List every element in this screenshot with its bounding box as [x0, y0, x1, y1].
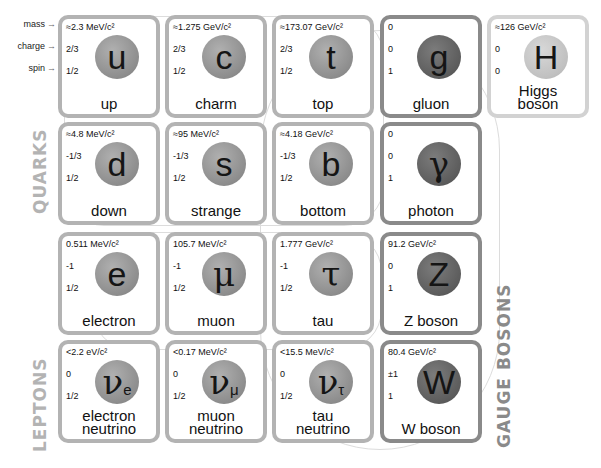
particle-name: bottom	[276, 204, 370, 217]
mass-value: ≈4.8 MeV/c²	[66, 129, 114, 139]
spin-value: 1/2	[173, 391, 186, 401]
mass-value: ≈1.275 GeV/c²	[173, 22, 231, 32]
charge-value: ±1	[388, 369, 398, 379]
particle-card-electron[interactable]: 0.511 MeV/c²-11/2 e electron	[58, 232, 160, 335]
charge-value: 0	[173, 369, 178, 379]
particle-card-muon[interactable]: 105.7 MeV/c²-11/2 μ muon	[165, 232, 267, 335]
particle-name: electron	[62, 314, 156, 327]
charge-value: -1	[280, 261, 288, 271]
legend-charge: charge→	[0, 41, 56, 51]
particle-symbol: d	[95, 142, 139, 186]
particle-symbol: c	[202, 35, 246, 79]
particle-name: W boson	[384, 422, 478, 435]
particle-symbol: H	[524, 35, 568, 79]
mass-value: 0	[388, 129, 393, 139]
particle-name: tau	[276, 314, 370, 327]
particle-card-photon[interactable]: 001 γ photon	[380, 122, 482, 225]
particle-symbol: W	[417, 360, 461, 404]
particle-symbol: γ	[417, 142, 461, 186]
spin-value: 1/2	[173, 66, 186, 76]
charge-value: 0	[66, 369, 71, 379]
particle-name: up	[62, 97, 156, 110]
charge-value: 0	[495, 44, 500, 54]
particle-card-tau[interactable]: 1.777 GeV/c²-11/2 τ tau	[272, 232, 374, 335]
spin-value: 1	[388, 283, 393, 293]
charge-value: 2/3	[280, 44, 293, 54]
particle-card-electron-neutrino[interactable]: <2.2 eV/c²01/2 νe electronneutrino	[58, 340, 160, 443]
particle-card-up[interactable]: ≈2.3 MeV/c²2/31/2 u up	[58, 15, 160, 118]
mass-value: 0	[388, 22, 393, 32]
legend-spin: spin→	[0, 63, 56, 73]
mass-value: ≈4.18 GeV/c²	[280, 129, 333, 139]
charge-value: 0	[388, 151, 393, 161]
particle-card-top[interactable]: ≈173.07 GeV/c²2/31/2 t top	[272, 15, 374, 118]
mass-value: <0.17 MeV/c²	[173, 347, 227, 357]
particle-name: gluon	[384, 97, 478, 110]
particle-name: strange	[169, 204, 263, 217]
mass-value: 91.2 GeV/c²	[388, 239, 436, 249]
particle-symbol: t	[309, 35, 353, 79]
particle-card-gluon[interactable]: 001 g gluon	[380, 15, 482, 118]
particle-name: Higgsboson	[491, 84, 585, 110]
charge-value: 0	[388, 261, 393, 271]
spin-value: 1	[388, 66, 393, 76]
particle-symbol: s	[202, 142, 246, 186]
particle-card-w-boson[interactable]: 80.4 GeV/c²±11 W W boson	[380, 340, 482, 443]
particle-card-tau-neutrino[interactable]: <15.5 MeV/c²01/2 ντ tauneutrino	[272, 340, 374, 443]
particle-symbol: νμ	[202, 360, 246, 404]
spin-value: 0	[495, 66, 500, 76]
particle-name: electronneutrino	[62, 409, 156, 435]
charge-value: -1/3	[66, 151, 82, 161]
spin-value: 1/2	[66, 283, 79, 293]
particle-symbol: u	[95, 35, 139, 79]
charge-value: -1	[173, 261, 181, 271]
particle-name: charm	[169, 97, 263, 110]
mass-value: 105.7 MeV/c²	[173, 239, 227, 249]
particle-name: photon	[384, 204, 478, 217]
particle-name: Z boson	[384, 314, 478, 327]
particle-symbol: μ	[202, 252, 246, 296]
mass-value: ≈126 GeV/c²	[495, 22, 545, 32]
particle-card-charm[interactable]: ≈1.275 GeV/c²2/31/2 c charm	[165, 15, 267, 118]
particle-symbol: Z	[417, 252, 461, 296]
spin-value: 1	[388, 391, 393, 401]
charge-value: 2/3	[173, 44, 186, 54]
particle-symbol: τ	[309, 252, 353, 296]
spin-value: 1/2	[173, 173, 186, 183]
mass-value: 1.777 GeV/c²	[280, 239, 333, 249]
spin-value: 1/2	[173, 283, 186, 293]
spin-value: 1/2	[280, 283, 293, 293]
spin-value: 1/2	[280, 173, 293, 183]
charge-value: 2/3	[66, 44, 79, 54]
particle-symbol: νe	[95, 360, 139, 404]
spin-value: 1/2	[66, 391, 79, 401]
mass-value: 80.4 GeV/c²	[388, 347, 436, 357]
mass-value: 0.511 MeV/c²	[66, 239, 119, 249]
spin-value: 1/2	[66, 66, 79, 76]
particle-card-z-boson[interactable]: 91.2 GeV/c²01 Z Z boson	[380, 232, 482, 335]
mass-value: ≈173.07 GeV/c²	[280, 22, 343, 32]
particle-card-strange[interactable]: ≈95 MeV/c²-1/31/2 s strange	[165, 122, 267, 225]
mass-value: <2.2 eV/c²	[66, 347, 107, 357]
group-label-gauge-bosons: GAUGE BOSONS	[494, 284, 514, 448]
charge-value: 0	[280, 369, 285, 379]
spin-value: 1	[388, 173, 393, 183]
charge-value: -1	[66, 261, 74, 271]
particle-name: down	[62, 204, 156, 217]
particle-card-bottom[interactable]: ≈4.18 GeV/c²-1/31/2 b bottom	[272, 122, 374, 225]
mass-value: ≈2.3 MeV/c²	[66, 22, 114, 32]
mass-value: <15.5 MeV/c²	[280, 347, 334, 357]
legend-mass: mass→	[0, 19, 56, 29]
spin-value: 1/2	[280, 66, 293, 76]
group-label-quarks: QUARKS	[30, 129, 50, 214]
charge-value: 0	[388, 44, 393, 54]
particle-symbol: g	[417, 35, 461, 79]
group-label-leptons: LEPTONS	[30, 358, 50, 452]
particle-card-higgs[interactable]: ≈126 GeV/c²00 H Higgsboson	[487, 15, 589, 118]
particle-symbol: e	[95, 252, 139, 296]
spin-value: 1/2	[66, 173, 79, 183]
particle-name: muonneutrino	[169, 409, 263, 435]
particle-card-down[interactable]: ≈4.8 MeV/c²-1/31/2 d down	[58, 122, 160, 225]
particle-card-muon-neutrino[interactable]: <0.17 MeV/c²01/2 νμ muonneutrino	[165, 340, 267, 443]
charge-value: -1/3	[280, 151, 296, 161]
